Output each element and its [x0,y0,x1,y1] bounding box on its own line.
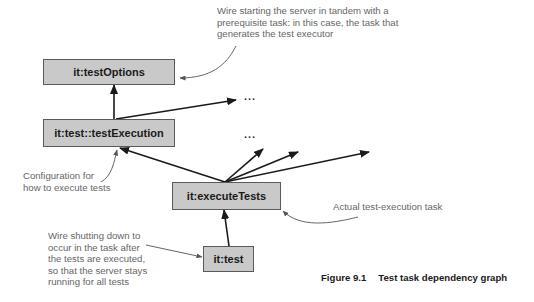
arrow-test-to-executetests [224,210,229,246]
annotation-line: occur in the task after [48,242,147,254]
node-test: it:test [203,246,254,272]
annotation-line: running for all tests [48,276,147,288]
annotation-line: Actual test-execution task [333,201,442,213]
annotation-test: Wire shutting down to occur in the task … [48,230,147,288]
annotation-line: prerequisite task: in this case, the tas… [217,17,398,29]
figure-title: Test task dependency graph [378,272,507,283]
node-test-options: it:testOptions [43,59,175,85]
node-execute-tests: it:executeTests [172,182,281,210]
node-label: it:test::testExecution [54,127,163,139]
ellipsis-upper: ... [244,90,256,102]
node-label: it:test [214,253,244,265]
callout-testoptions [180,46,236,78]
node-label: it:executeTests [187,190,266,202]
annotation-test-options: Wire starting the server in tandem with … [217,5,398,40]
node-test-execution: it:test::testExecution [43,119,175,147]
annotation-line: so that the server stays [48,265,147,277]
arrow-executetests-to-other-3 [225,152,369,182]
annotation-line: Configuration for [23,170,110,182]
callout-executetests [283,211,358,223]
annotation-configuration: Configuration for how to execute tests [23,170,110,193]
arrow-executetests-to-other-1 [225,149,263,182]
ellipsis-lower: ... [244,128,256,140]
annotation-line: Wire shutting down to [48,230,147,242]
figure-number: Figure 9.1 [321,272,366,283]
node-label: it:testOptions [73,66,145,78]
arrow-executetests-to-testexecution [120,148,225,182]
callout-test [146,245,202,257]
annotation-line: the tests are executed, [48,253,147,265]
figure-caption: Figure 9.1Test task dependency graph [321,272,507,283]
annotation-line: generates the test executor [217,28,398,40]
annotation-line: how to execute tests [23,182,110,194]
annotation-line: Wire starting the server in tandem with … [217,5,398,17]
annotation-execute-tests: Actual test-execution task [333,201,442,213]
arrow-testexecution-to-more [116,100,236,119]
arrow-executetests-to-other-2 [225,152,298,182]
